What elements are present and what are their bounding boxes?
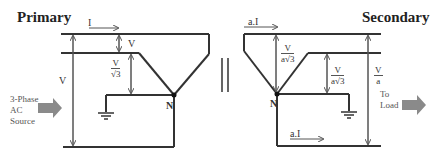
primary-phase-voltage: V √3 xyxy=(111,58,120,79)
primary-neutral-node xyxy=(172,93,177,98)
secondary-phase-voltage-1: V a√3 xyxy=(281,43,294,64)
core-icon xyxy=(222,58,228,92)
secondary-current-top-label: a.I xyxy=(248,16,258,27)
secondary-current-bottom-label: a.I xyxy=(290,128,300,139)
secondary-phase-voltage-2: V a√3 xyxy=(331,65,344,86)
source-label: 3-Phase AC Source xyxy=(10,94,39,127)
primary-title: Primary xyxy=(17,9,71,26)
primary-wiring xyxy=(61,34,209,147)
primary-current-label: I xyxy=(88,17,91,28)
primary-neutral-label: N xyxy=(166,100,173,111)
load-label: To Load xyxy=(380,89,399,111)
secondary-title: Secondary xyxy=(362,9,430,26)
secondary-neutral-label: N xyxy=(270,98,277,109)
secondary-line-voltage: V a xyxy=(374,65,383,86)
secondary-neutral-node xyxy=(275,92,280,97)
primary-ground-icon xyxy=(98,113,114,119)
load-arrow-icon xyxy=(402,95,426,115)
primary-delta-voltage-label: V xyxy=(128,38,135,49)
source-arrow-icon xyxy=(38,98,62,118)
secondary-wiring xyxy=(244,34,381,146)
secondary-ground-icon xyxy=(341,112,357,118)
primary-line-voltage-label: V xyxy=(59,75,66,86)
